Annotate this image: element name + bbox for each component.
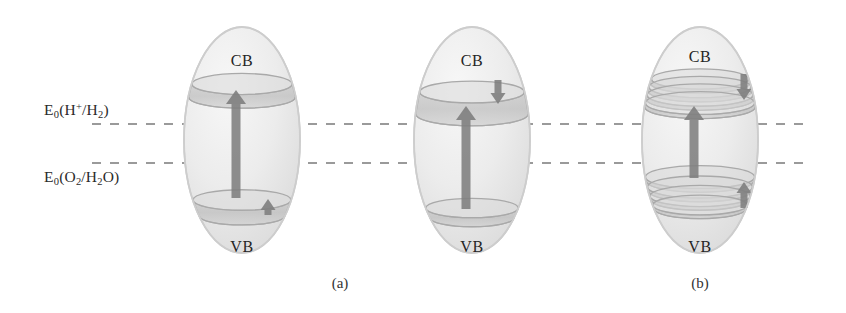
energy-level-vb-intermediate-particle — [426, 198, 518, 226]
conduction-band-label-quantum-particle: CB — [689, 48, 712, 66]
label-e-symbol: E — [44, 101, 54, 118]
label-h-close: ) — [103, 101, 108, 118]
redox-label-hydrogen: E0(H+/H2) — [44, 101, 109, 120]
arrow-shaft — [265, 210, 272, 215]
band-top-face — [193, 190, 291, 211]
arrow-shaft — [232, 104, 241, 198]
label-o-tail: O — [103, 168, 114, 185]
arrow-shaft — [690, 120, 699, 178]
figure-canvas: E0(H+/H2) E0(O2/H2O) CBVBCBVBCBVB(a)(b) — [0, 0, 846, 313]
band-top-face — [420, 81, 524, 103]
valence-band-label-intermediate-particle: VB — [460, 238, 483, 256]
label-h-mid: /H — [82, 101, 98, 118]
label-h-open: (H — [59, 101, 76, 118]
energy-level-vb-quantum-particle — [653, 195, 747, 219]
band-top-face — [426, 198, 518, 217]
caption-a: (a) — [332, 275, 349, 292]
arrow-shaft — [741, 74, 748, 89]
arrow-shaft — [495, 80, 502, 93]
label-o-open: (O — [59, 168, 76, 185]
label-e-symbol-o: E — [44, 168, 54, 185]
redox-label-oxygen: E0(O2/H2O) — [44, 168, 119, 187]
valence-band-label-bulk-particle: VB — [230, 238, 253, 256]
caption-b: (b) — [691, 275, 709, 292]
arrow-shaft — [462, 120, 471, 209]
conduction-band-label-intermediate-particle: CB — [461, 52, 484, 70]
band-top-face — [645, 92, 754, 115]
label-o-close: ) — [114, 168, 119, 185]
label-o-mid: /H — [81, 168, 97, 185]
diagram-svg — [0, 0, 846, 313]
valence-band-label-quantum-particle: VB — [688, 238, 711, 256]
band-top-face — [192, 73, 292, 94]
band-top-face — [653, 195, 747, 215]
conduction-band-label-bulk-particle: CB — [231, 52, 254, 70]
energy-level-vb-bulk-particle — [193, 190, 291, 225]
